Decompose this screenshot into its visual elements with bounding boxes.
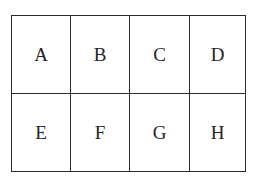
grid-cell-h: H — [190, 94, 245, 171]
grid-cell-c: C — [130, 16, 190, 94]
grid-cell-g: G — [130, 94, 190, 171]
grid-cell-a: A — [12, 16, 71, 94]
grid-cell-e: E — [12, 94, 71, 171]
grid-cell-d: D — [190, 16, 245, 94]
letter-grid: A B C D E F G H — [11, 15, 246, 172]
grid-cell-f: F — [71, 94, 130, 171]
grid-cell-b: B — [71, 16, 130, 94]
